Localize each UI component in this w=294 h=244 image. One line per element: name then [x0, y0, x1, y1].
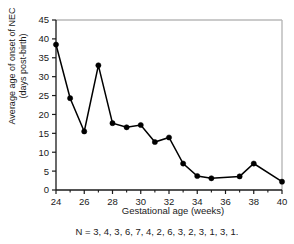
- svg-text:15: 15: [38, 128, 49, 139]
- data-point: [96, 63, 101, 68]
- data-point: [138, 122, 143, 127]
- svg-text:30: 30: [38, 71, 49, 82]
- x-axis-label: Gestational age (weeks): [52, 205, 294, 216]
- data-point: [181, 161, 186, 166]
- sample-size-annotation: N = 3, 4, 3, 6, 7, 4, 2, 6, 3, 2, 3, 1, …: [20, 226, 294, 237]
- data-point: [279, 179, 284, 184]
- data-point: [209, 176, 214, 181]
- data-point: [53, 42, 58, 47]
- data-point: [152, 139, 157, 144]
- data-point: [166, 135, 171, 140]
- data-point: [124, 125, 129, 130]
- data-point: [195, 173, 200, 178]
- svg-text:0: 0: [44, 184, 49, 195]
- data-point: [110, 121, 115, 126]
- data-line: [56, 45, 282, 182]
- svg-text:45: 45: [38, 14, 49, 25]
- svg-text:10: 10: [38, 147, 49, 158]
- svg-text:25: 25: [38, 90, 49, 101]
- data-point: [251, 161, 256, 166]
- svg-text:35: 35: [38, 52, 49, 63]
- chart-figure: Average age of onset of NEC(days post-bi…: [0, 0, 294, 244]
- svg-text:40: 40: [38, 33, 49, 44]
- svg-text:20: 20: [38, 109, 49, 120]
- data-point: [68, 96, 73, 101]
- data-point: [82, 129, 87, 134]
- y-axis-tick-labels: 051015202530354045: [38, 14, 49, 195]
- data-point: [237, 174, 242, 179]
- svg-text:5: 5: [44, 166, 49, 177]
